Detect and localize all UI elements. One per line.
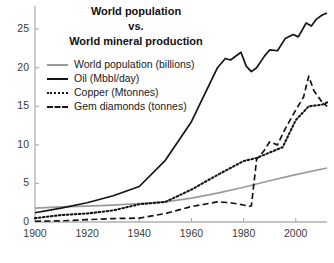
legend-swatch-dotted-icon [47, 86, 68, 98]
legend-label-gem-diamonds: Gem diamonds (tonnes) [74, 99, 187, 113]
legend-label-oil: Oil (Mbbl/day) [74, 71, 139, 85]
x-axis-tick-label: 1900 [15, 227, 55, 239]
series-line-world-population [35, 168, 327, 208]
y-axis-tick-label: 5 [3, 176, 29, 188]
legend-item-oil[interactable]: Oil (Mbbl/day) [47, 71, 227, 85]
y-axis-tick-label: 0 [3, 215, 29, 227]
chart-legend: World population (billions) Oil (Mbbl/da… [47, 57, 227, 113]
chart-title-line-1: World population [52, 4, 220, 19]
legend-label-copper: Copper (Mtonnes) [74, 85, 159, 99]
x-axis-tick-label: 1980 [224, 227, 264, 239]
chart-title: World population vs. World mineral produ… [52, 4, 220, 49]
legend-swatch-line-icon [47, 58, 68, 70]
legend-label-world-population: World population (billions) [74, 57, 195, 71]
chart-title-line-2: vs. [52, 19, 220, 34]
legend-swatch-line-icon [47, 72, 68, 84]
legend-item-gem-diamonds[interactable]: Gem diamonds (tonnes) [47, 99, 227, 113]
y-axis-tick-label: 15 [3, 99, 29, 111]
y-axis-tick-label: 10 [3, 138, 29, 150]
x-axis-tick-label: 1960 [171, 227, 211, 239]
y-axis-tick-label: 25 [3, 22, 29, 34]
legend-swatch-dashed-icon [47, 100, 68, 112]
x-axis-tick-label: 1920 [67, 227, 107, 239]
series-line-copper [35, 102, 327, 218]
chart-title-line-3: World mineral production [52, 34, 220, 49]
legend-item-world-population[interactable]: World population (billions) [47, 57, 227, 71]
x-axis-tick-label: 1940 [119, 227, 159, 239]
x-axis-tick-label: 2000 [276, 227, 316, 239]
y-axis-tick-label: 20 [3, 61, 29, 73]
chart-container: World population vs. World mineral produ… [0, 0, 334, 263]
legend-item-copper[interactable]: Copper (Mtonnes) [47, 85, 227, 99]
